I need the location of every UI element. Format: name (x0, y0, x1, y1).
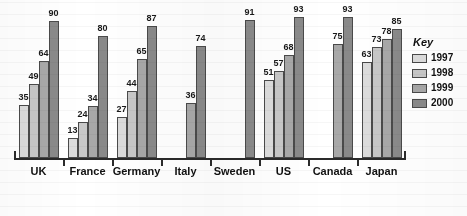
bar-value-label: 64 (38, 49, 48, 58)
bar: 78 (382, 39, 392, 158)
bar-slot: 49 (29, 6, 39, 158)
bar-value-label: 87 (146, 14, 156, 23)
bar-value-label: 74 (195, 34, 205, 43)
bar-group: 13243480France (63, 6, 112, 158)
bar-slot (313, 6, 323, 158)
bar: 13 (68, 138, 78, 158)
legend-label: 1998 (431, 68, 453, 78)
bar-slot: 44 (127, 6, 137, 158)
bar-value-label: 24 (77, 110, 87, 119)
bar: 27 (117, 117, 127, 158)
bar-value-label: 90 (48, 9, 58, 18)
x-axis-right-stub (404, 151, 406, 160)
bar-slot: 87 (147, 6, 157, 158)
x-axis-group-label: France (63, 166, 112, 177)
bar-slot: 74 (196, 6, 206, 158)
bar-slot: 93 (294, 6, 304, 158)
legend-swatch (412, 54, 427, 63)
bar: 51 (264, 80, 274, 158)
bar-slot (323, 6, 333, 158)
bar: 64 (39, 61, 49, 158)
legend-item: 2000 (412, 98, 466, 108)
bar-value-label: 85 (391, 17, 401, 26)
legend-title: Key (412, 36, 466, 48)
bar: 35 (19, 105, 29, 158)
bar-group: 51576893US (259, 6, 308, 158)
bar-slot: 35 (19, 6, 29, 158)
bar-value-label: 27 (116, 105, 126, 114)
bar-groups: 35496490UK13243480France27446587Germany3… (14, 6, 406, 158)
legend-item: 1998 (412, 68, 466, 78)
bar-slot: 27 (117, 6, 127, 158)
bar-group: 63737885Japan (357, 6, 406, 158)
bar-value-label: 49 (28, 72, 38, 81)
bar-slot: 65 (137, 6, 147, 158)
legend-item: 1999 (412, 83, 466, 93)
bar: 73 (372, 47, 382, 158)
bar-slot: 80 (98, 6, 108, 158)
bar: 90 (49, 21, 59, 158)
bar-group: 91Sweden (210, 6, 259, 158)
x-axis-group-label: Canada (308, 166, 357, 177)
bar-slot: 36 (186, 6, 196, 158)
bar-slot: 73 (372, 6, 382, 158)
x-axis-tick (210, 158, 212, 166)
grouped-bar-chart: 35496490UK13243480France27446587Germany3… (0, 0, 467, 216)
legend-label: 1999 (431, 83, 453, 93)
bar-slot: 75 (333, 6, 343, 158)
bar-slot: 34 (88, 6, 98, 158)
bar-value-label: 68 (283, 43, 293, 52)
bar-value-label: 93 (293, 5, 303, 14)
bar-value-label: 78 (381, 27, 391, 36)
bar: 63 (362, 62, 372, 158)
bar: 36 (186, 103, 196, 158)
bar-group: 35496490UK (14, 6, 63, 158)
bar-value-label: 80 (97, 24, 107, 33)
bar: 49 (29, 84, 39, 158)
bar-value-label: 57 (273, 59, 283, 68)
x-axis-group-label: Italy (161, 166, 210, 177)
bar-value-label: 73 (371, 35, 381, 44)
bar: 93 (294, 17, 304, 158)
bar-slot: 91 (245, 6, 255, 158)
bar-group: 3674Italy (161, 6, 210, 158)
bar-slot: 64 (39, 6, 49, 158)
bar: 85 (392, 29, 402, 158)
bar-slot: 78 (382, 6, 392, 158)
legend-swatch (412, 84, 427, 93)
bar-slot (176, 6, 186, 158)
bar: 80 (98, 36, 108, 158)
bar-value-label: 34 (87, 94, 97, 103)
bar-slot: 51 (264, 6, 274, 158)
legend: Key 1997199819992000 (412, 36, 466, 113)
legend-swatch (412, 99, 427, 108)
legend-items: 1997199819992000 (412, 53, 466, 108)
bar-slot (215, 6, 225, 158)
legend-swatch (412, 69, 427, 78)
bar-slot: 90 (49, 6, 59, 158)
bar-value-label: 65 (136, 47, 146, 56)
bar-value-label: 36 (185, 91, 195, 100)
bar-slot (235, 6, 245, 158)
bar-slot (225, 6, 235, 158)
bar: 34 (88, 106, 98, 158)
x-axis-tick (161, 158, 163, 166)
bar-slot: 57 (274, 6, 284, 158)
bar-slot: 13 (68, 6, 78, 158)
x-axis-group-label: UK (14, 166, 63, 177)
x-axis-tick (357, 158, 359, 166)
bar: 93 (343, 17, 353, 158)
bar-group: 27446587Germany (112, 6, 161, 158)
bar: 75 (333, 44, 343, 158)
x-axis-tick (259, 158, 261, 166)
legend-item: 1997 (412, 53, 466, 63)
bar-value-label: 63 (361, 50, 371, 59)
bar-slot (166, 6, 176, 158)
x-axis-group-label: Sweden (210, 166, 259, 177)
x-axis-group-label: Japan (357, 166, 406, 177)
x-axis-group-label: Germany (112, 166, 161, 177)
bar: 91 (245, 20, 255, 158)
x-axis-tick (308, 158, 310, 166)
plot-area: 35496490UK13243480France27446587Germany3… (14, 6, 406, 178)
bar-slot: 93 (343, 6, 353, 158)
